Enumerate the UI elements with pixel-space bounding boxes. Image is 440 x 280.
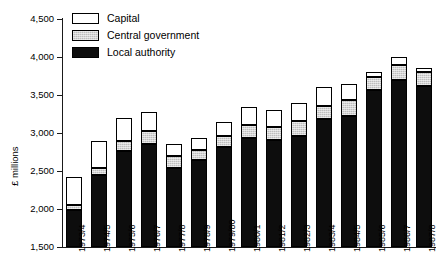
x-axis-tick-label: 1976/7 <box>153 224 162 252</box>
bar-segment-central-government <box>191 150 207 160</box>
bar-1986-7 <box>391 19 407 247</box>
legend-label-capital: Capital <box>107 13 140 24</box>
bar-segment-capital <box>66 177 82 205</box>
y-axis-tick-label: 2,000 <box>30 204 54 214</box>
x-axis-tick-label: 1973/4 <box>78 224 87 252</box>
bar-1980-1 <box>241 19 257 247</box>
y-axis-tick-label: 4,000 <box>30 52 54 62</box>
bar-segment-central-government <box>416 72 432 86</box>
bar-1983-4 <box>316 19 332 247</box>
y-axis-tick-label: 4,500 <box>30 14 54 24</box>
x-axis-tick-label: 1986/7 <box>403 224 412 252</box>
bar-1981-2 <box>266 19 282 247</box>
x-axis-tick-label: 1985/6 <box>378 224 387 252</box>
legend-swatch-local-authority <box>72 47 99 58</box>
bar-segment-central-government <box>166 156 182 168</box>
legend-item-local-authority: Local authority <box>72 45 199 60</box>
bar-segment-capital <box>116 118 132 142</box>
bar-segment-central-government <box>341 100 357 116</box>
bar-segment-capital <box>366 72 382 77</box>
bar-segment-central-government <box>266 127 282 140</box>
x-axis-tick-label: 1980/1 <box>253 224 262 252</box>
bar-1982-3 <box>291 19 307 247</box>
bar-segment-central-government <box>216 136 232 147</box>
bar-segment-capital <box>166 144 182 155</box>
y-axis-tick-labels: 1,5002,0002,5003,0003,5004,0004,500 <box>0 0 54 280</box>
x-axis-tick-label: 1975/6 <box>128 224 137 252</box>
bar-segment-central-government <box>91 168 107 175</box>
x-axis-tick-label: 1981/2 <box>278 224 287 252</box>
x-axis-tick-label: 1987/8 <box>428 224 437 252</box>
bar-segment-central-government <box>291 121 307 136</box>
bar-segment-central-government <box>366 77 382 91</box>
bar-segment-capital <box>91 141 107 168</box>
bar-segment-local-authority <box>391 80 407 247</box>
y-axis-tick-label: 3,000 <box>30 128 54 138</box>
legend-item-central-government: Central government <box>72 28 199 43</box>
bar-segment-capital <box>216 122 232 136</box>
bar-segment-capital <box>266 110 282 127</box>
legend-swatch-capital <box>72 13 99 24</box>
bar-segment-central-government <box>316 106 332 119</box>
y-axis-tick-label: 2,500 <box>30 166 54 176</box>
stacked-bar-chart: £ millions 1,5002,0002,5003,0003,5004,00… <box>0 0 440 280</box>
bar-segment-central-government <box>241 125 257 138</box>
legend-item-capital: Capital <box>72 11 199 26</box>
bar-segment-capital <box>391 57 407 65</box>
bar-segment-central-government <box>66 205 82 210</box>
x-axis-tick-label: 1974/5 <box>103 224 112 252</box>
legend: Capital Central government Local authori… <box>72 11 199 62</box>
bar-segment-capital <box>416 68 432 73</box>
x-axis-tick-label: 1978/9 <box>203 224 212 252</box>
bar-1984-5 <box>341 19 357 247</box>
bar-segment-capital <box>241 107 257 125</box>
bar-segment-capital <box>316 87 332 105</box>
bar-segment-capital <box>191 138 207 150</box>
x-axis-tick-label: 1983/4 <box>328 224 337 252</box>
bar-segment-central-government <box>391 65 407 79</box>
bar-segment-capital <box>291 103 307 120</box>
bar-1985-6 <box>366 19 382 247</box>
bar-1987-8 <box>416 19 432 247</box>
legend-label-local-authority: Local authority <box>107 47 175 58</box>
x-axis-tick-label: 1982/3 <box>303 224 312 252</box>
bar-segment-central-government <box>116 141 132 151</box>
x-axis-tick-label: 1977/8 <box>178 224 187 252</box>
y-axis-tick-label: 1,500 <box>30 242 54 252</box>
x-axis-tick-label: 1979/80 <box>228 219 237 252</box>
bar-segment-capital <box>341 84 357 100</box>
x-axis-tick-label: 1984/5 <box>353 224 362 252</box>
legend-swatch-central-government <box>72 30 99 41</box>
bar-segment-local-authority <box>416 86 432 247</box>
legend-label-central-government: Central government <box>107 30 199 41</box>
y-axis-tick-label: 3,500 <box>30 90 54 100</box>
bar-segment-capital <box>141 112 157 131</box>
bar-1979-80 <box>216 19 232 247</box>
bar-segment-central-government <box>141 131 157 144</box>
